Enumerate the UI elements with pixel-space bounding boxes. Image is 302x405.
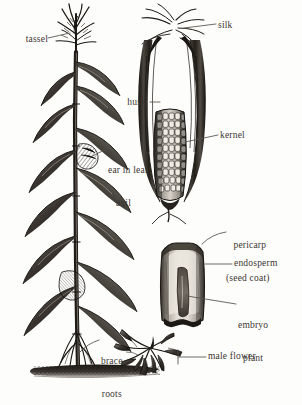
cob-with-kernels (152, 109, 187, 224)
label-pericarp-line2: (seed coat) (226, 273, 270, 284)
plant-leaves-lower (23, 212, 137, 352)
label-husk: husk (112, 97, 146, 108)
label-tassel: tassel (12, 34, 48, 45)
label-male-flower: male flower (208, 351, 256, 362)
label-kernel: kernel (220, 130, 245, 141)
label-brace-roots: brace roots (101, 334, 123, 405)
kernel-section (158, 240, 210, 327)
leader-pericarp (202, 232, 226, 244)
label-ear-in-leaf-axil-line1: ear in leaf (108, 165, 148, 176)
label-brace-roots-line1: brace (101, 356, 123, 367)
label-silk: silk (218, 20, 233, 31)
label-ear-in-leaf-axil: ear in leaf axil (108, 143, 148, 220)
leader-silk (184, 24, 216, 28)
tassel-part (56, 4, 96, 52)
label-embryo-plant: embryo plant (238, 298, 268, 375)
kernel-rows (155, 110, 187, 200)
label-endosperm: endosperm (234, 258, 277, 269)
label-pericarp: pericarp (seed coat) (226, 218, 270, 295)
corn-ear (138, 4, 206, 224)
label-brace-roots-line2: roots (101, 389, 123, 400)
label-pericarp-line1: pericarp (226, 240, 270, 251)
ear-in-axil (76, 144, 98, 170)
label-embryo-plant-line1: embryo (238, 320, 268, 331)
label-ear-in-leaf-axil-line2: axil (108, 198, 148, 209)
plant-stalk (72, 52, 82, 368)
